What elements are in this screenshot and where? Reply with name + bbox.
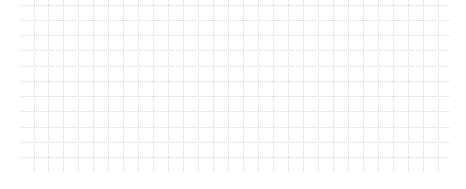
vertical-grid-lines [35, 0, 439, 172]
horizontal-grid-lines [20, 6, 450, 158]
dotted-grid [0, 0, 466, 189]
